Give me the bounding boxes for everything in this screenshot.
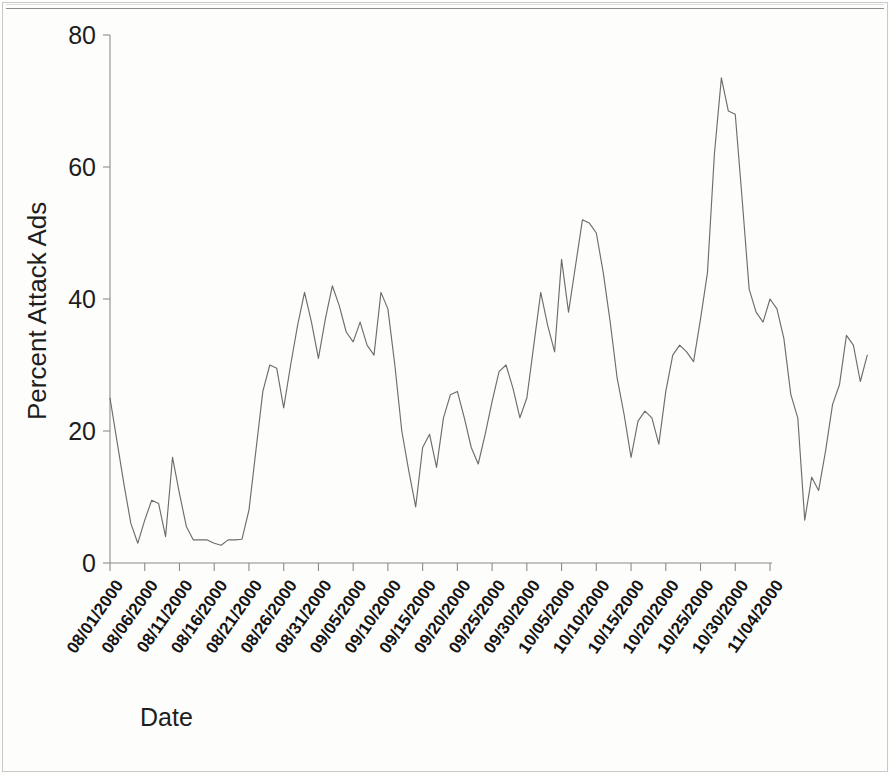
y-axis-title: Percent Attack Ads [22, 202, 52, 420]
x-axis-title: Date [140, 703, 193, 731]
line-chart-figure: 020406080 08/01/200008/06/200008/11/2000… [0, 0, 890, 774]
x-axis-tick-labels: 08/01/200008/06/200008/11/200008/16/2000… [63, 576, 787, 657]
figure-page: 020406080 08/01/200008/06/200008/11/2000… [0, 0, 890, 774]
y-tick-label: 40 [68, 285, 96, 313]
y-tick-label: 0 [82, 549, 96, 577]
series-line-percent-attack-ads [110, 78, 867, 545]
y-tick-label: 80 [68, 21, 96, 49]
y-axis-tick-labels: 020406080 [68, 21, 96, 577]
x-axis-ticks [110, 563, 770, 571]
y-axis-ticks [103, 35, 110, 563]
y-tick-label: 60 [68, 153, 96, 181]
chart-svg: 020406080 08/01/200008/06/200008/11/2000… [0, 0, 890, 774]
y-tick-label: 20 [68, 417, 96, 445]
